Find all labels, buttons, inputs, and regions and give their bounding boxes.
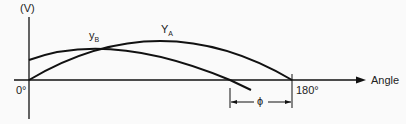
end-label: 180°: [296, 85, 319, 96]
phase-arrow-right-icon: [285, 100, 291, 104]
y-axis-label: (V): [20, 3, 35, 14]
phase-diagram: (V) 0° 180° Angle yB YA ϕ: [0, 0, 406, 124]
curve-b-letter: y: [89, 29, 95, 41]
phase-arrow-left-icon: [231, 100, 237, 104]
curve-a-label: YA: [161, 24, 173, 35]
x-axis-label: Angle: [371, 75, 399, 86]
phase-label: ϕ: [257, 96, 263, 107]
curve-b-label: yB: [89, 30, 99, 41]
x-axis-arrow-icon: [356, 77, 366, 84]
diagram-graphics: [0, 0, 406, 124]
origin-label: 0°: [16, 85, 27, 96]
curve-y-a: [29, 41, 292, 80]
curve-y-b: [29, 49, 251, 90]
curve-a-subscript: A: [168, 30, 173, 37]
curve-b-subscript: B: [95, 36, 100, 43]
